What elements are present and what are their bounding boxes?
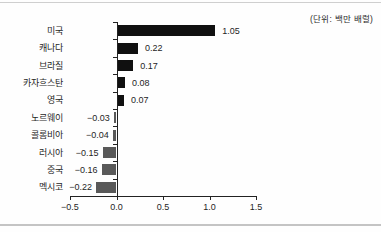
bar-8 — [102, 164, 117, 175]
category-label: 미국 — [0, 25, 63, 37]
value-label: −0.22 — [0, 181, 92, 193]
x-axis-tick — [117, 196, 118, 200]
bar-2 — [118, 60, 134, 71]
x-axis-tick — [163, 196, 164, 200]
x-tick-label: −0.5 — [55, 201, 85, 213]
category-label: 카자흐스탄 — [0, 77, 63, 89]
y-axis-tick — [113, 22, 117, 23]
y-axis-tick — [113, 144, 117, 145]
x-tick-label: 1.5 — [241, 201, 271, 213]
y-axis-tick — [113, 109, 117, 110]
bar-7 — [103, 147, 117, 158]
category-label: 캐나다 — [0, 42, 63, 54]
bar-0 — [118, 25, 216, 36]
value-label: 0.07 — [131, 94, 149, 106]
value-label: 1.05 — [222, 25, 240, 37]
chart-page: (단위: 백만 배럴) −0.50.00.51.01.5미국1.05캐나다0.2… — [0, 0, 381, 232]
x-tick-label: 0.5 — [148, 201, 178, 213]
x-axis-tick — [210, 196, 211, 200]
x-tick-label: 1.0 — [195, 201, 225, 213]
category-label: 영국 — [0, 94, 63, 106]
x-axis-tick — [70, 196, 71, 200]
y-axis-tick — [113, 92, 117, 93]
x-tick-label: 0.0 — [102, 201, 132, 213]
bar-1 — [118, 43, 138, 54]
value-label: −0.16 — [0, 164, 98, 176]
bar-6 — [113, 130, 117, 141]
category-label: 브라질 — [0, 60, 63, 72]
value-label: −0.15 — [0, 147, 99, 159]
y-axis-tick — [113, 126, 117, 127]
bar-chart: −0.50.00.51.01.5미국1.05캐나다0.22브라질0.17카자흐스… — [0, 0, 381, 232]
bar-3 — [118, 77, 125, 88]
bottom-rule — [0, 224, 381, 226]
y-axis-tick — [113, 161, 117, 162]
y-axis-tick — [113, 74, 117, 75]
y-axis-tick — [113, 179, 117, 180]
bar-9 — [96, 182, 116, 193]
value-label: −0.03 — [0, 112, 110, 124]
bar-5 — [114, 112, 117, 123]
value-label: 0.08 — [132, 77, 150, 89]
value-label: −0.04 — [0, 129, 109, 141]
y-axis-tick — [113, 57, 117, 58]
value-label: 0.17 — [140, 60, 158, 72]
bar-4 — [118, 95, 125, 106]
value-label: 0.22 — [145, 42, 163, 54]
y-axis-tick — [113, 39, 117, 40]
x-axis-tick — [256, 196, 257, 200]
